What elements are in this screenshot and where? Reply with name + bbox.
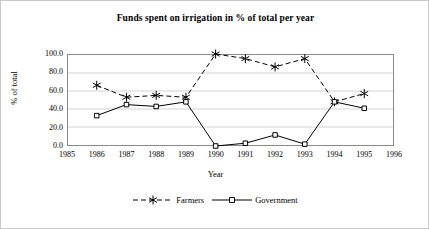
x-tick-label: 1996	[377, 150, 411, 160]
y-tick-label: 40.0	[23, 105, 63, 113]
chart-legend: FarmersGovernment	[1, 194, 429, 206]
series-markers	[93, 50, 368, 107]
series-farmers	[93, 50, 368, 107]
legend-entry-government[interactable]: Government	[212, 194, 298, 206]
legend-label: Farmers	[176, 195, 204, 205]
series-markers	[94, 100, 366, 149]
square-marker-icon	[212, 194, 252, 206]
legend-entry-farmers[interactable]: Farmers	[133, 194, 204, 206]
y-axis-title: % of total	[9, 53, 19, 123]
legend-label: Government	[255, 195, 298, 205]
y-tick-label: 60.0	[23, 87, 63, 95]
series-line	[97, 102, 365, 146]
y-tick-label: 20.0	[23, 124, 63, 132]
chart-title: Funds spent on irrigation in % of total …	[1, 13, 429, 23]
y-tick-label: 80.0	[23, 68, 63, 76]
y-axis-tick-labels: 100.080.060.040.020.00.0	[23, 54, 63, 146]
data-series-layer	[67, 54, 394, 146]
chart-container: Funds spent on irrigation in % of total …	[0, 0, 429, 229]
series-government	[94, 100, 366, 149]
y-tick-label: 0.0	[23, 142, 63, 150]
asterisk-marker-icon	[133, 194, 173, 206]
y-tick-label: 100.0	[23, 50, 63, 58]
series-line	[97, 54, 365, 102]
x-axis-tick-labels: 1985198619871988198919901991199219931994…	[67, 150, 394, 162]
x-axis-title: Year	[1, 169, 429, 179]
